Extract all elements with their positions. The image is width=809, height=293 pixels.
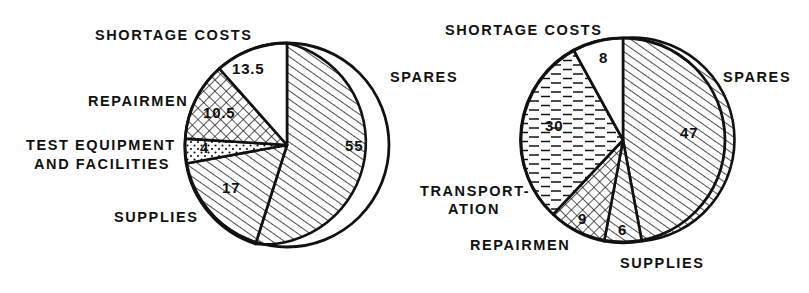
right-value-supplies: 6 [618, 222, 627, 237]
left-label-test-equipment-line1: TEST EQUIPMENT [26, 138, 176, 152]
left-label-supplies: SUPPLIES [114, 210, 199, 224]
right-value-transportation: 30 [545, 118, 563, 133]
right-value-repairmen: 9 [578, 211, 587, 226]
right-label-repairmen: REPAIRMEN [470, 238, 570, 252]
left-label-test-equipment-line2: AND FACILITIES [34, 157, 170, 171]
right-slice-spares [623, 38, 734, 242]
left-value-test-equipment: 4 [200, 140, 209, 155]
right-label-spares: SPARES [723, 70, 791, 84]
left-label-repairmen: REPAIRMEN [88, 94, 188, 108]
left-value-shortage-costs: 13.5 [232, 61, 264, 76]
left-value-spares: 55 [345, 138, 363, 153]
left-value-repairmen: 10.5 [203, 105, 235, 120]
right-label-transportation-line2: ATION [448, 202, 500, 216]
two-pie-chart-figure: SHORTAGE COSTS REPAIRMEN TEST EQUIPMENT … [0, 0, 809, 293]
right-value-shortage-costs: 8 [599, 50, 608, 65]
right-value-spares: 47 [680, 125, 698, 140]
left-label-shortage-costs: SHORTAGE COSTS [95, 28, 252, 42]
left-label-spares: SPARES [390, 70, 458, 84]
right-label-supplies: SUPPLIES [620, 256, 705, 270]
right-label-shortage-costs: SHORTAGE COSTS [445, 23, 602, 37]
left-value-supplies: 17 [222, 180, 240, 195]
right-label-transportation-line1: TRANSPORT- [420, 184, 530, 198]
right-pie-chart [520, 38, 734, 243]
